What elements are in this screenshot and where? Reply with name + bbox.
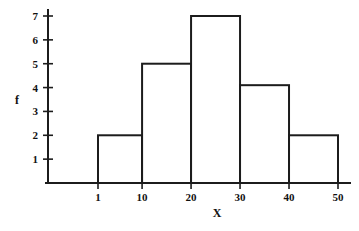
y-axis-tick-labels: 1 2 3 4 5 6 7: [33, 10, 39, 165]
y-tick-label: 2: [33, 129, 39, 141]
bar-series: [98, 16, 338, 183]
histogram-bar: [289, 135, 338, 183]
x-tick-label: 10: [137, 191, 149, 203]
y-tick-label: 6: [33, 34, 39, 46]
y-tick-label: 5: [33, 58, 39, 70]
y-tick-label: 3: [33, 105, 39, 117]
histogram-canvas: 1 2 3 4 5 6 7 1 10 20 30 40 50 f X: [0, 0, 359, 231]
histogram-bar: [191, 16, 240, 183]
x-tick-label: 1: [95, 191, 101, 203]
histogram-bar: [240, 85, 289, 183]
histogram-bar: [98, 135, 142, 183]
x-tick-label: 20: [186, 191, 198, 203]
x-tick-label: 30: [235, 191, 247, 203]
histogram-bar: [142, 64, 191, 183]
y-tick-label: 4: [33, 82, 39, 94]
x-tick-label: 50: [333, 191, 345, 203]
y-tick-label: 7: [33, 10, 39, 22]
y-axis-title: f: [15, 93, 20, 107]
x-axis-tick-labels: 1 10 20 30 40 50: [95, 191, 344, 203]
histogram-figure: 1 2 3 4 5 6 7 1 10 20 30 40 50 f X: [0, 0, 359, 231]
y-tick-label: 1: [33, 153, 39, 165]
x-axis-title: X: [213, 206, 222, 220]
x-tick-label: 40: [284, 191, 296, 203]
